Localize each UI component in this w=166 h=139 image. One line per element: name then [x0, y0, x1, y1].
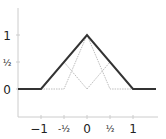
component-right	[87, 62, 133, 89]
chart: 1 ½ 0 −1 -½ 0 ½ 1	[0, 0, 166, 139]
y-tick-label-1: 1	[3, 29, 11, 43]
hat-function-line	[18, 35, 156, 89]
x-tick-label-neg1: −1	[30, 122, 48, 136]
component-center	[41, 35, 133, 89]
y-tick-label-half: ½	[3, 58, 12, 68]
x-tick-label-neghalf: -½	[58, 124, 70, 134]
x-tick-label-1: 1	[129, 122, 137, 136]
x-tick-label-half: ½	[106, 124, 115, 134]
component-left	[41, 62, 87, 89]
x-tick-label-0: 0	[83, 122, 91, 136]
y-tick-label-0: 0	[3, 83, 11, 97]
component-lines	[41, 35, 133, 89]
